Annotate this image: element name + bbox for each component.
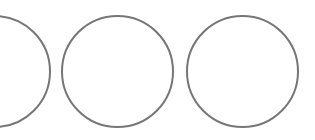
circle-3 xyxy=(186,15,299,128)
circle-2 xyxy=(61,15,174,128)
circle-1 xyxy=(0,15,51,128)
